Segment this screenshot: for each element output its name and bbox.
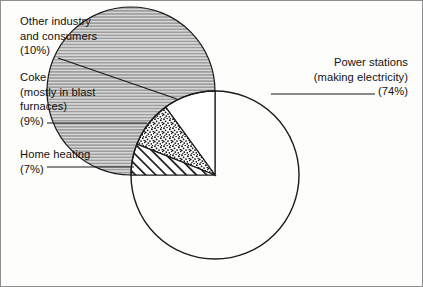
callout-home-line1: Home heating <box>20 147 90 162</box>
callout-power-line1: Power stations <box>314 55 408 70</box>
callout-other-line2: and consumers <box>20 29 97 44</box>
callout-coke-line1: Coke <box>20 70 95 85</box>
callout-coke-percent: (9%) <box>20 114 95 129</box>
callout-power-line2: (making electricity) <box>314 70 408 85</box>
callout-coke-line2: (mostly in blast <box>20 85 95 100</box>
pie-chart-figure: Other industry and consumers (10%) Coke … <box>0 0 423 287</box>
callout-other-percent: (10%) <box>20 43 97 58</box>
callout-label-coke: Coke (mostly in blast furnaces) (9%) <box>20 70 95 128</box>
callout-coke-line3: furnaces) <box>20 99 95 114</box>
callout-label-other-industry: Other industry and consumers (10%) <box>20 14 97 58</box>
callout-label-home-heating: Home heating (7%) <box>20 147 90 176</box>
callout-other-line1: Other industry <box>20 14 97 29</box>
callout-power-percent: (74%) <box>314 84 408 99</box>
callout-label-power-stations: Power stations (making electricity) (74%… <box>314 55 408 99</box>
callout-home-percent: (7%) <box>20 162 90 177</box>
